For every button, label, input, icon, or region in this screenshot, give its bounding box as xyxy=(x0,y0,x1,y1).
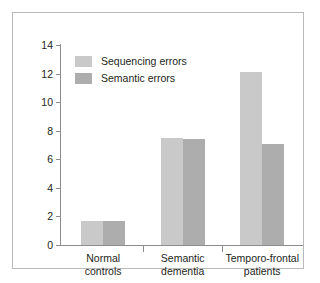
y-axis-tick-mark xyxy=(56,245,61,246)
y-axis-tick-label: 14 xyxy=(41,40,53,51)
x-axis-category-label: Temporo-frontalpatients xyxy=(217,252,307,277)
y-axis-tick-mark xyxy=(56,159,61,160)
x-axis-category-label-line: Temporo-frontal xyxy=(217,252,307,265)
bar xyxy=(161,138,183,245)
y-axis-tick-mark xyxy=(56,74,61,75)
legend-color-swatch xyxy=(75,73,92,84)
x-axis-category-label-line: controls xyxy=(58,265,148,278)
y-axis-tick-mark xyxy=(56,45,61,46)
y-axis-tick-mark xyxy=(56,102,61,103)
x-axis-category-label: Semanticdementia xyxy=(138,252,228,277)
x-axis-line xyxy=(60,245,303,246)
bar xyxy=(81,221,103,245)
bar xyxy=(183,139,205,245)
x-axis-category-label-line: dementia xyxy=(138,265,228,278)
legend-item: Sequencing errors xyxy=(75,55,187,68)
legend-item: Semantic errors xyxy=(75,72,187,85)
legend-label: Sequencing errors xyxy=(101,56,187,67)
y-axis-tick-label: 8 xyxy=(47,125,53,136)
figure-canvas: 02468101214 NormalcontrolsSemanticdement… xyxy=(0,0,320,283)
y-axis-tick-label: 4 xyxy=(47,183,53,194)
y-axis-tick-mark xyxy=(56,188,61,189)
x-axis-category-label-line: patients xyxy=(217,265,307,278)
y-axis-tick-label: 6 xyxy=(47,154,53,165)
y-axis-tick-label: 0 xyxy=(47,240,53,251)
x-axis-category-label-line: Normal xyxy=(58,252,148,265)
x-axis-category-label-line: Semantic xyxy=(138,252,228,265)
bar xyxy=(262,144,284,245)
legend-color-swatch xyxy=(75,56,92,67)
y-axis-tick-label: 10 xyxy=(41,97,53,108)
chart-legend: Sequencing errorsSemantic errors xyxy=(75,55,187,89)
x-axis-category-label: Normalcontrols xyxy=(58,252,148,277)
y-axis-tick-mark xyxy=(56,131,61,132)
legend-label: Semantic errors xyxy=(101,73,175,84)
bar xyxy=(103,221,125,245)
figure-frame: 02468101214 NormalcontrolsSemanticdement… xyxy=(12,12,304,269)
y-axis-tick-mark xyxy=(56,216,61,217)
y-axis-tick-label: 12 xyxy=(41,68,53,79)
bar xyxy=(240,72,262,245)
y-axis-tick-label: 2 xyxy=(47,211,53,222)
